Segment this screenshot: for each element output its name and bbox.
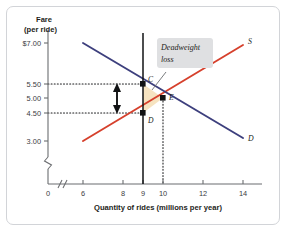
x-tick-label-6: 6	[81, 189, 85, 198]
point-marker-c	[140, 81, 146, 87]
x-tick-label-0: 0	[46, 189, 50, 198]
x-tick-label-12: 12	[199, 189, 207, 198]
figure-container: $7.00 5.50 5.00 4.50 3.00 0 6 8 9 10 12 …	[0, 0, 286, 231]
y-tick-label-300: 3.00	[27, 137, 41, 146]
y-axis-break-icon	[45, 157, 52, 169]
point-marker-d	[140, 110, 146, 116]
y-tick-label-700: $7.00	[23, 39, 42, 48]
x-axis-title: Quantity of rides (millions per year)	[94, 203, 222, 212]
y-tick-label-450: 4.50	[27, 109, 41, 118]
supply-curve-label: S	[248, 37, 252, 46]
y-tick-label-550: 5.50	[27, 80, 41, 89]
y-axis-title-line1: Fare	[36, 15, 52, 24]
deadweight-loss-callout-line1: Deadweight	[160, 43, 201, 52]
deadweight-loss-chart: $7.00 5.50 5.00 4.50 3.00 0 6 8 9 10 12 …	[0, 0, 286, 231]
point-label-e: E	[168, 93, 174, 102]
x-tick-label-10: 10	[159, 189, 167, 198]
deadweight-loss-callout-line2: loss	[161, 55, 174, 64]
point-marker-e	[160, 95, 166, 101]
x-tick-label-8: 8	[121, 189, 125, 198]
point-label-d: D	[147, 116, 154, 125]
point-label-c: C	[148, 75, 154, 84]
x-tick-label-9: 9	[141, 189, 145, 198]
demand-curve-label: D	[247, 134, 254, 143]
y-axis-title-line2: (per ride)	[24, 25, 57, 34]
x-tick-label-14: 14	[239, 189, 247, 198]
y-tick-label-500: 5.00	[27, 94, 41, 103]
